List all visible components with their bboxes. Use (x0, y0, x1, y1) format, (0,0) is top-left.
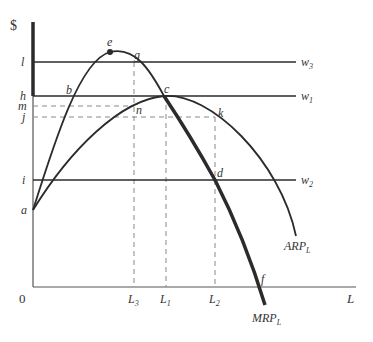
curve-labels: ARPL MRPL (251, 239, 311, 327)
point-label-n: n (136, 103, 142, 117)
point-label-k: k (218, 106, 224, 120)
point-label-e: e (107, 35, 113, 49)
wage-lines (33, 62, 296, 180)
wage-label-w1: w1 (301, 89, 313, 105)
curve-label-arp: ARPL (283, 239, 311, 255)
x-label-L2: L2 (208, 292, 220, 308)
point-label-b: b (66, 83, 72, 97)
wage-labels: w3 w1 w2 (301, 55, 313, 189)
x-label-L3: L3 (127, 292, 139, 308)
curve-label-mrp: MRPL (251, 311, 282, 327)
x-label-L1: L1 (159, 292, 171, 308)
wage-label-w2: w2 (301, 173, 313, 189)
wage-label-w3: w3 (301, 55, 313, 71)
y-tick-labels: l h m j i a (18, 55, 27, 217)
point-label-c: c (164, 82, 170, 96)
x-tick-labels: L3 L1 L2 (127, 292, 220, 308)
point-label-d: d (217, 166, 224, 180)
y-axis-label: $ (10, 18, 17, 33)
y-label-l: l (21, 55, 25, 69)
point-e-dot (107, 49, 113, 55)
origin-label: 0 (19, 291, 26, 306)
labor-market-diagram: $ L 0 l h m j i a L3 L1 L2 w3 w (0, 0, 373, 342)
x-axis-label: L (346, 291, 354, 306)
point-label-g: g (134, 48, 140, 62)
y-label-i: i (22, 173, 25, 187)
y-label-a: a (21, 203, 27, 217)
point-label-f: f (261, 272, 266, 286)
